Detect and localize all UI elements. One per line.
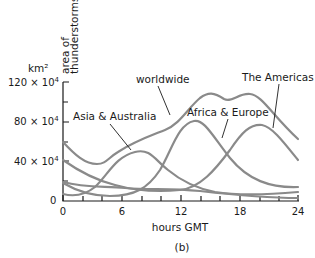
y-tick-labels: 120 × 104 80 × 104 40 × 104 0 (8, 76, 60, 206)
label-asia-australia: Asia & Australia (73, 110, 156, 122)
x-tick-24: 24 (292, 206, 305, 217)
x-axis-label: hours GMT (152, 221, 209, 233)
annotations: worldwide Asia & Australia Africa & Euro… (73, 71, 314, 150)
y-tick-120: 120 × 104 (8, 76, 60, 88)
y-tick-40: 40 × 104 (14, 155, 59, 167)
y-ticks (63, 82, 69, 181)
x-tick-18: 18 (234, 206, 247, 217)
y-tick-80: 80 × 104 (14, 115, 59, 127)
label-americas: The Americas (241, 71, 314, 83)
leader-africa-europe (222, 119, 228, 138)
leader-asia-australia (110, 124, 131, 150)
curve-worldwide (63, 94, 298, 164)
y-axis-label-line2: thunderstorms (68, 0, 80, 74)
y-unit-label: km² (28, 62, 49, 74)
figure-caption: (b) (175, 241, 190, 253)
x-tick-0: 0 (60, 206, 66, 217)
x-tick-labels: 0 6 12 18 24 (60, 206, 305, 217)
x-tick-6: 6 (119, 206, 125, 217)
leader-worldwide (158, 86, 170, 115)
leader-americas (273, 84, 279, 128)
thunderstorm-area-chart: km² area of thunderstorms 120 × 104 80 ×… (0, 0, 315, 258)
label-worldwide: worldwide (136, 73, 190, 85)
y-tick-0: 0 (50, 195, 56, 206)
label-africa-europe: Africa & Europe (187, 106, 269, 118)
x-tick-12: 12 (175, 206, 188, 217)
